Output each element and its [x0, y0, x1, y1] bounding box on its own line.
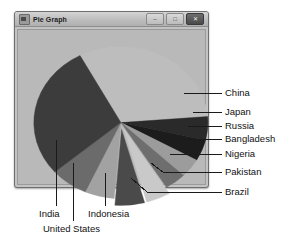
- maximize-icon: □: [173, 16, 177, 22]
- label-pakistan: Pakistan: [225, 167, 261, 177]
- close-button[interactable]: ✕: [186, 13, 204, 25]
- label-united-states: United States: [43, 224, 100, 234]
- window-controls: – □ ✕: [146, 13, 206, 25]
- chart-panel: [17, 29, 206, 185]
- window-titlebar[interactable]: Pie Graph – □ ✕: [15, 12, 208, 27]
- minimize-icon: –: [153, 16, 156, 22]
- chart-icon: [19, 14, 30, 25]
- minimize-button[interactable]: –: [146, 13, 164, 25]
- label-indonesia: Indonesia: [88, 209, 129, 219]
- label-bangladesh: Bangladesh: [225, 134, 275, 144]
- screenshot-root: Pie Graph – □ ✕: [0, 0, 298, 243]
- pie-slice-group: [34, 47, 208, 206]
- pie-graph-window: Pie Graph – □ ✕: [14, 11, 209, 188]
- label-japan: Japan: [225, 107, 251, 117]
- label-russia: Russia: [225, 121, 254, 131]
- label-brazil: Brazil: [225, 187, 249, 197]
- label-nigeria: Nigeria: [225, 149, 255, 159]
- close-icon: ✕: [193, 16, 198, 22]
- label-china: China: [225, 88, 250, 98]
- pie-chart[interactable]: [18, 30, 205, 184]
- maximize-button[interactable]: □: [166, 13, 184, 25]
- window-title: Pie Graph: [33, 16, 67, 23]
- label-india: India: [39, 209, 60, 219]
